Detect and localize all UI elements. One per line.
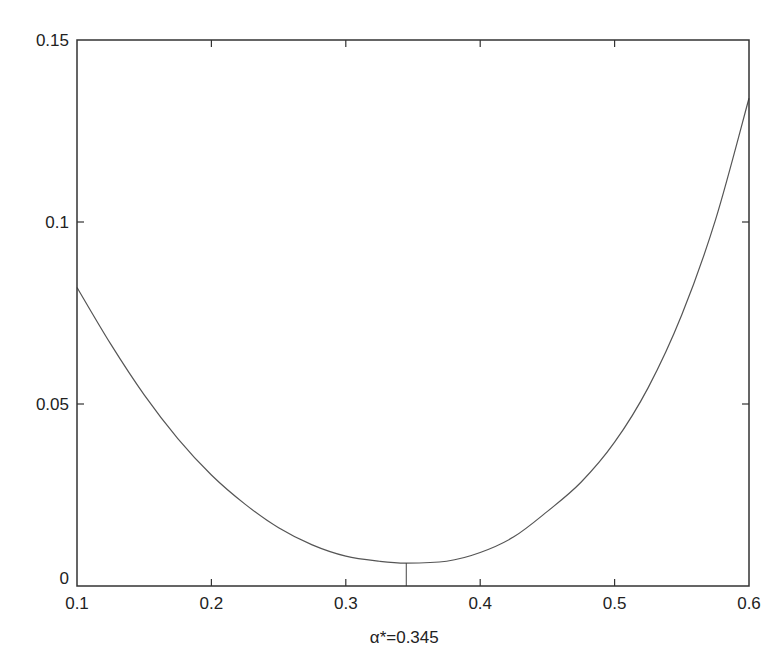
x-tick-label: 0.1 [65,594,89,613]
plot-frame [77,40,749,586]
x-axis-label: α*=0.345 [370,628,439,647]
x-tick-label: 0.6 [737,594,761,613]
y-tick-label: 0.05 [36,395,69,414]
y-tick-label: 0 [60,569,69,588]
x-tick-label: 0.2 [200,594,224,613]
y-tick-label: 0.1 [45,213,69,232]
x-tick-label: 0.5 [603,594,627,613]
y-tick-label: 0.15 [36,31,69,50]
data-curve [77,98,749,563]
axis-ticks [77,40,749,586]
axis-tick-labels: 0.10.20.30.40.50.600.050.10.15 [36,31,761,613]
x-tick-label: 0.3 [334,594,358,613]
chart: 0.10.20.30.40.50.600.050.10.15 α*=0.345 [0,0,782,671]
x-tick-label: 0.4 [468,594,492,613]
